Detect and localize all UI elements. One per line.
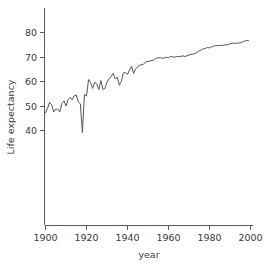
x-tick-label-1920: 1920 [74, 232, 98, 243]
y-tick-label-70: 70 [25, 52, 37, 63]
x-axis-ticks [46, 226, 251, 231]
x-tick-label-1980: 1980 [197, 232, 221, 243]
x-tick-label-1900: 1900 [33, 232, 57, 243]
x-tick-label-1940: 1940 [115, 232, 139, 243]
y-tick-label-50: 50 [25, 101, 37, 112]
line-chart: 80 70 60 50 40 1900 1920 1940 1960 1980 … [0, 0, 278, 265]
x-axis-title: year [138, 249, 159, 260]
x-tick-label-2000: 2000 [238, 232, 262, 243]
y-tick-label-40: 40 [25, 125, 37, 136]
y-axis-ticks [40, 33, 45, 131]
y-tick-label-60: 60 [25, 76, 37, 87]
chart-canvas: 80 70 60 50 40 1900 1920 1940 1960 1980 … [0, 0, 278, 265]
data-series-life-expectancy [46, 41, 249, 133]
y-tick-label-80: 80 [25, 27, 37, 38]
x-tick-label-1960: 1960 [156, 232, 180, 243]
y-axis-title: Life expectancy [5, 79, 16, 154]
